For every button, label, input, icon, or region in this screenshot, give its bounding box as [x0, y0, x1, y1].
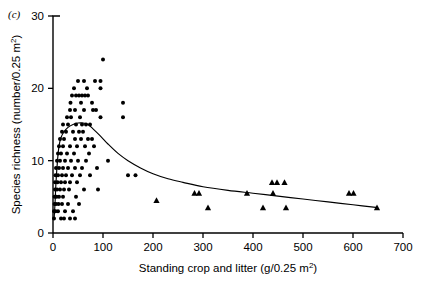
- data-point-circle: [90, 101, 94, 105]
- y-tick-labels: 0102030: [31, 10, 44, 239]
- data-point-circle: [70, 94, 74, 98]
- axes: [53, 16, 403, 233]
- data-point-circle: [60, 130, 64, 134]
- data-point-circle: [75, 180, 79, 184]
- data-point-circle: [78, 173, 82, 177]
- data-point-circle: [66, 166, 70, 170]
- data-point-circle: [70, 173, 74, 177]
- data-point-circle: [61, 166, 65, 170]
- x-tick-labels: 0100200300400500600700: [50, 241, 413, 253]
- data-point-circle: [126, 173, 130, 177]
- data-point-triangle: [153, 197, 159, 203]
- data-point-circle: [99, 115, 103, 119]
- data-point-circle: [69, 115, 73, 119]
- data-point-circle: [63, 209, 67, 213]
- data-point-circle: [65, 115, 69, 119]
- y-tick-label: 0: [38, 227, 44, 239]
- x-tick-label: 0: [50, 241, 56, 253]
- data-point-triangle: [270, 190, 276, 196]
- y-tick-label: 10: [31, 155, 44, 167]
- x-tick-label: 300: [193, 241, 212, 253]
- data-point-circle: [90, 137, 94, 141]
- data-point-circle: [80, 123, 84, 127]
- data-point-circle: [88, 173, 92, 177]
- data-point-circle: [67, 188, 71, 192]
- data-point-circle: [73, 108, 77, 112]
- data-point-circle: [63, 180, 67, 184]
- data-point-circle: [94, 108, 98, 112]
- data-point-circle: [64, 173, 68, 177]
- data-point-circle: [84, 159, 88, 163]
- data-point-circle: [58, 188, 62, 192]
- data-point-circle: [57, 202, 61, 206]
- data-point-circle: [72, 151, 76, 155]
- data-point-triangle: [283, 205, 289, 211]
- data-point-circle: [81, 130, 85, 134]
- data-point-circle: [79, 101, 83, 105]
- data-point-circle: [75, 144, 79, 148]
- data-point-circle: [68, 217, 72, 221]
- data-point-circle: [134, 173, 138, 177]
- data-point-circle: [87, 151, 91, 155]
- data-point-circle: [56, 209, 60, 213]
- data-point-circle: [68, 180, 72, 184]
- figure-panel: (c) 0100200300400500600700 0102030 Stand…: [0, 0, 427, 282]
- data-point-circle: [95, 166, 99, 170]
- data-point-circle: [62, 188, 66, 192]
- data-point-circle: [76, 159, 80, 163]
- data-point-circle: [84, 123, 88, 127]
- data-point-circle: [69, 159, 73, 163]
- x-tick-label: 200: [143, 241, 162, 253]
- data-point-circle: [73, 217, 77, 221]
- data-point-circle: [77, 202, 81, 206]
- data-point-circle: [56, 173, 60, 177]
- x-tick-label: 600: [343, 241, 362, 253]
- data-point-circle: [66, 123, 70, 127]
- data-point-circle: [57, 144, 61, 148]
- data-point-circle: [57, 195, 61, 199]
- data-point-circle: [52, 217, 56, 221]
- data-point-circle: [58, 159, 62, 163]
- data-point-circle: [74, 123, 78, 127]
- data-point-circle: [61, 123, 65, 127]
- data-point-circle: [74, 195, 78, 199]
- x-tick-label: 500: [293, 241, 312, 253]
- data-point-circle: [121, 101, 125, 105]
- data-point-circle: [73, 137, 77, 141]
- data-point-circle: [99, 86, 103, 90]
- data-point-triangle: [281, 179, 287, 185]
- data-point-circle: [69, 101, 73, 105]
- x-tick-label: 400: [243, 241, 262, 253]
- data-point-circle: [63, 159, 67, 163]
- data-point-circle: [99, 79, 103, 83]
- data-point-circle: [80, 166, 84, 170]
- data-point-triangle: [205, 205, 211, 211]
- data-point-circle: [56, 180, 60, 184]
- data-point-circle: [71, 130, 75, 134]
- x-tick-label: 100: [93, 241, 112, 253]
- data-point-triangle: [274, 179, 280, 185]
- fitted-curve: [54, 123, 378, 220]
- data-point-circle: [83, 144, 87, 148]
- data-point-circle: [121, 115, 125, 119]
- data-point-circle: [96, 188, 100, 192]
- data-point-circle: [59, 151, 63, 155]
- data-point-circle: [68, 144, 72, 148]
- data-point-circle: [82, 79, 86, 83]
- data-point-circle: [82, 108, 86, 112]
- data-point-triangle: [269, 179, 275, 185]
- data-point-circle: [57, 166, 61, 170]
- y-axis-title-text: Species richness (number/0.25 m2): [9, 35, 22, 215]
- data-point-circle: [73, 166, 77, 170]
- data-point-circle: [62, 137, 66, 141]
- data-point-circle: [78, 115, 82, 119]
- data-point-circle: [79, 137, 83, 141]
- data-point-circle: [58, 137, 62, 141]
- x-axis-title-text: Standing crop and litter (g/0.25 m2): [139, 261, 318, 274]
- y-axis-title: Species richness (number/0.25 m2): [9, 35, 22, 215]
- data-point-triangle: [350, 190, 356, 196]
- data-point-circle: [61, 144, 65, 148]
- data-point-circle: [68, 108, 72, 112]
- data-point-circle: [88, 123, 92, 127]
- data-point-circle: [92, 144, 96, 148]
